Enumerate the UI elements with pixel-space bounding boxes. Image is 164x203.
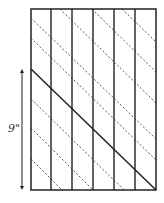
arrow-down-icon xyxy=(20,186,24,190)
arrow-up-icon xyxy=(20,69,24,73)
quilt-cutting-diagram xyxy=(0,0,164,203)
dashed-cut-line xyxy=(122,9,156,42)
dashed-cut-line xyxy=(31,128,93,190)
dashed-cut-line xyxy=(92,9,156,72)
dashed-cut-line xyxy=(60,9,156,103)
dimension-label: 9" xyxy=(8,122,20,135)
dashed-cut-line xyxy=(31,159,62,190)
